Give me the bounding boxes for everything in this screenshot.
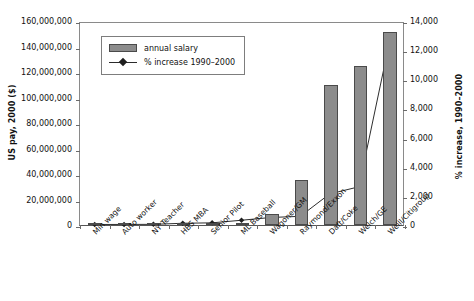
y-tick-label-left: 140,000,000: [21, 43, 72, 52]
y-tick-label-left: 160,000,000: [21, 17, 72, 26]
bar-swatch-icon: [109, 44, 137, 52]
y-tick-mark-right: [403, 140, 407, 141]
y-tick-label-right: 14,000: [410, 17, 438, 26]
legend-item-annual-salary: annual salary: [109, 41, 235, 55]
chart-legend: annual salary % increase 1990–2000: [101, 36, 245, 75]
y-tick-mark-left: [76, 74, 80, 75]
y-tick-mark-left: [76, 49, 80, 50]
legend-label-percent-increase: % increase 1990–2000: [144, 58, 235, 67]
chart-container: US pay, 2000 ($) % increase, 1990–2000 0…: [0, 0, 474, 301]
line-marker-swatch-icon: [109, 58, 137, 66]
y-axis-right-ticks: 02,0004,0006,0008,00010,00012,00014,000: [410, 0, 474, 301]
y-tick-mark-left: [76, 151, 80, 152]
y-tick-label-left: 20,000,000: [26, 196, 72, 205]
y-tick-mark-right: [403, 110, 407, 111]
legend-item-percent-increase: % increase 1990–2000: [109, 55, 235, 69]
bar: [354, 66, 368, 225]
y-tick-mark-left: [76, 202, 80, 203]
y-tick-label-left: 0: [67, 221, 72, 230]
y-tick-mark-left: [76, 100, 80, 101]
y-tick-label-left: 40,000,000: [26, 170, 72, 179]
y-tick-label-right: 12,000: [410, 46, 438, 55]
y-tick-mark-left: [76, 125, 80, 126]
y-tick-label-right: 4,000: [410, 163, 433, 172]
y-tick-mark-right: [403, 198, 407, 199]
y-tick-label-left: 100,000,000: [21, 94, 72, 103]
y-tick-mark-right: [403, 81, 407, 82]
legend-label-annual-salary: annual salary: [144, 44, 198, 53]
y-tick-mark-left: [76, 176, 80, 177]
y-tick-mark-right: [403, 23, 407, 24]
y-tick-mark-left: [76, 23, 80, 24]
x-axis-category-labels: Min wageAuto workerNY TeacherHBS MBASeni…: [79, 228, 404, 301]
y-tick-label-left: 60,000,000: [26, 145, 72, 154]
y-tick-mark-right: [403, 52, 407, 53]
y-tick-label-right: 6,000: [410, 134, 433, 143]
y-tick-label-left: 120,000,000: [21, 68, 72, 77]
x-tick-mark: [405, 225, 406, 229]
y-axis-left-ticks: 020,000,00040,000,00060,000,00080,000,00…: [0, 0, 72, 301]
y-tick-label-right: 10,000: [410, 75, 438, 84]
bar: [383, 32, 397, 225]
y-tick-mark-right: [403, 169, 407, 170]
y-tick-label-left: 80,000,000: [26, 119, 72, 128]
y-tick-label-right: 8,000: [410, 104, 433, 113]
y-tick-label-right: 0: [410, 221, 415, 230]
